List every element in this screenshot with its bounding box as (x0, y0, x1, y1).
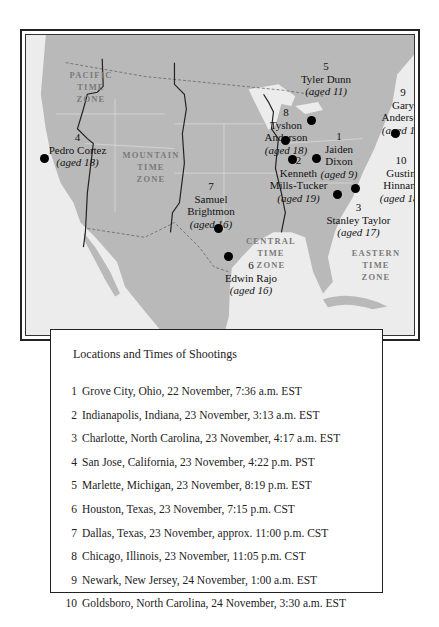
legend-item: 10Goldsboro, North Carolina, 24 November… (61, 592, 346, 616)
map-frame: PACIFICTIMEZONE MOUNTAINTIMEZONE CENTRAL… (20, 29, 420, 341)
marker-dot-4[interactable] (40, 154, 49, 163)
legend-list: 1Grove City, Ohio, 22 November, 7:36 a.m… (61, 380, 346, 616)
legend-item: 5Marlette, Michigan, 23 November, 8:19 p… (61, 474, 346, 498)
marker-dot-3[interactable] (333, 190, 342, 199)
marker-label-4: 4Pedro Cortez(aged 18) (40, 131, 115, 169)
legend-item: 4San Jose, California, 23 November, 4:22… (61, 451, 346, 475)
marker-label-8: 8TyshonAnderson(aged 18) (256, 106, 316, 156)
legend-item: 3Charlotte, North Carolina, 23 November,… (61, 427, 346, 451)
legend-item: 7Dallas, Texas, 23 November, approx. 11:… (61, 522, 346, 546)
marker-label-10: 10GustinHinnant(aged 18) (371, 154, 415, 204)
legend-item: 1Grove City, Ohio, 22 November, 7:36 a.m… (61, 380, 346, 404)
marker-dot-8[interactable] (281, 136, 290, 145)
marker-label-6: 6Edwin Rajo(aged 16) (216, 259, 286, 297)
legend-item: 8Chicago, Illinois, 23 November, 11:05 p… (61, 545, 346, 569)
marker-dot-2[interactable] (288, 155, 297, 164)
map-area: PACIFICTIMEZONE MOUNTAINTIMEZONE CENTRAL… (25, 34, 415, 336)
marker-dot-10[interactable] (351, 184, 360, 193)
marker-dot-6[interactable] (224, 252, 233, 261)
cuba (323, 296, 387, 310)
legend-item: 6Houston, Texas, 23 November, 7:15 p.m. … (61, 498, 346, 522)
marker-label-2: 2KennethMills-Tucker(aged 19) (261, 154, 336, 204)
legend-box: Locations and Times of Shootings 1Grove … (50, 329, 383, 593)
legend-title: Locations and Times of Shootings (73, 347, 237, 362)
marker-label-3: 3Stanley Taylor(aged 17) (316, 201, 401, 239)
marker-label-5: 5Tyler Dunn(aged 11) (286, 60, 366, 98)
legend-item: 2Indianapolis, Indiana, 23 November, 3:1… (61, 404, 346, 428)
marker-label-9: 9GaryAnderson(aged 18) (368, 86, 415, 136)
zone-label-eastern: EASTERNTIMEZONE (336, 247, 415, 283)
marker-dot-7[interactable] (214, 224, 223, 233)
marker-dot-9[interactable] (391, 129, 400, 138)
marker-label-7: 7SamuelBrightmon(aged 16) (176, 180, 246, 230)
zone-label-pacific: PACIFICTIMEZONE (56, 69, 126, 105)
legend-item: 9Newark, New Jersey, 24 November, 1:00 a… (61, 569, 346, 593)
